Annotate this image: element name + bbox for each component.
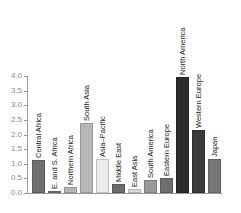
bar-central-africa <box>32 160 45 193</box>
bar-e-and-s-africa <box>48 191 61 193</box>
bar-label: East Asia <box>131 156 139 187</box>
bar-label: Asia–Pacific <box>99 116 107 157</box>
bar-south-asia <box>80 123 93 193</box>
y-tick-label: 2.5 <box>0 116 22 124</box>
bar-label: Western Europe <box>195 74 203 128</box>
y-tick-label: 0.5 <box>0 174 22 182</box>
y-tick-mark <box>24 149 27 150</box>
y-axis <box>27 76 28 194</box>
bar-chart: 0.00.51.01.52.02.53.03.54.0 Central Afri… <box>0 0 241 213</box>
bar-label: Central Africa <box>35 113 43 158</box>
y-tick-mark <box>24 164 27 165</box>
bar-northern-africa <box>64 187 77 193</box>
y-tick-mark <box>24 178 27 179</box>
y-tick-label: 3.0 <box>0 101 22 109</box>
y-tick-label: 4.0 <box>0 72 22 80</box>
bar-label: Middle East <box>115 143 123 182</box>
bar-label: Northern Africa <box>67 135 75 185</box>
bar-japan <box>208 159 221 193</box>
y-tick-mark <box>24 76 27 77</box>
bar-north-america <box>176 77 189 193</box>
y-tick-mark <box>24 193 27 194</box>
y-tick-mark <box>24 120 27 121</box>
bar-eastern-europe <box>160 178 173 193</box>
bar-asia-pacific <box>96 159 109 193</box>
y-tick-label: 3.5 <box>0 87 22 95</box>
bar-east-asia <box>128 189 141 193</box>
bar-label: Eastern Europe <box>163 124 171 176</box>
y-tick-mark <box>24 91 27 92</box>
bar-label: North America <box>179 27 187 75</box>
bar-label: Japan <box>211 137 219 157</box>
bar-label: South Asia <box>83 85 91 121</box>
bar-label: E. and S. Africa <box>51 137 59 189</box>
bar-middle-east <box>112 184 125 193</box>
y-tick-mark <box>24 135 27 136</box>
y-tick-label: 1.5 <box>0 145 22 153</box>
y-tick-label: 0.0 <box>0 189 22 197</box>
bar-western-europe <box>192 130 205 193</box>
bar-south-america <box>144 180 157 193</box>
y-tick-label: 2.0 <box>0 131 22 139</box>
y-tick-mark <box>24 105 27 106</box>
bar-label: South America <box>147 129 155 178</box>
y-tick-label: 1.0 <box>0 160 22 168</box>
x-axis <box>27 193 222 194</box>
